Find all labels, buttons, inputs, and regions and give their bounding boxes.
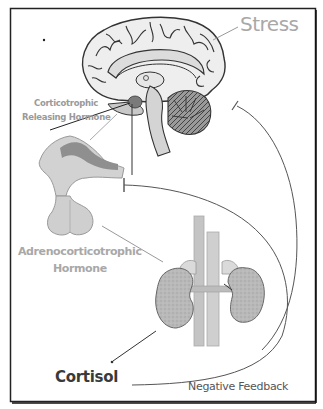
acth-label-line2: Hormone <box>53 262 107 275</box>
crh-label-line2: Releasing Hormone <box>22 112 110 122</box>
stress-label: Stress <box>240 12 298 36</box>
cortisol-label: Cortisol <box>55 368 118 386</box>
negative-feedback-label: Negative Feedback <box>188 380 288 393</box>
crh-label-line1: Corticotrophic <box>34 98 98 108</box>
acth-label-line1: Adrenocorticotrophic <box>18 245 142 258</box>
hpa-axis-diagram <box>0 0 323 409</box>
